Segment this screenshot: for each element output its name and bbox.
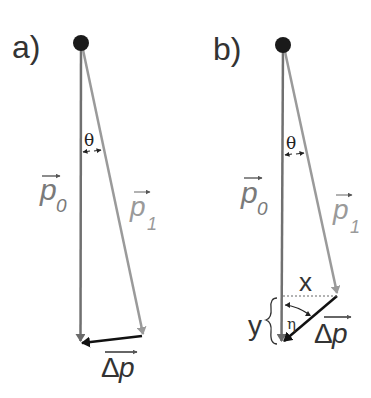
svg-text:p: p <box>39 173 57 206</box>
p1-label: p 1 <box>129 191 157 234</box>
theta-label: θ <box>84 130 94 150</box>
svg-text:p: p <box>331 318 348 349</box>
delta-p-vector <box>82 336 142 343</box>
p0-label: p 0 <box>39 173 67 216</box>
svg-text:1: 1 <box>350 217 360 237</box>
svg-text:p: p <box>118 352 135 383</box>
eta-arrow-left <box>285 302 290 308</box>
svg-text:p: p <box>129 191 146 222</box>
momentum-vector-diagram: a) θ p 0 p 1 Δ p b) <box>0 0 371 398</box>
p1-label: p 1 <box>332 194 360 237</box>
svg-text:Δ: Δ <box>314 318 333 349</box>
panel-b-label: b) <box>213 31 241 67</box>
svg-text:p: p <box>240 176 258 209</box>
p0-vector <box>282 46 284 341</box>
svg-text:1: 1 <box>147 214 157 234</box>
panel-a-label: a) <box>12 29 40 65</box>
pivot-point <box>73 35 89 51</box>
y-brace <box>266 298 277 344</box>
theta-arrow-right <box>94 150 101 151</box>
panel-b: b) θ p 0 p 1 x y <box>213 31 360 349</box>
svg-text:0: 0 <box>257 198 268 219</box>
svg-text:Δ: Δ <box>101 352 120 383</box>
svg-text:0: 0 <box>56 195 67 216</box>
theta-arrow-left <box>285 154 292 155</box>
theta-label: θ <box>286 133 296 153</box>
p0-vector <box>81 45 82 341</box>
delta-p-label: Δ p <box>101 352 137 383</box>
x-label: x <box>299 267 312 297</box>
p0-label: p 0 <box>240 176 268 219</box>
y-label: y <box>248 310 262 341</box>
pivot-point <box>275 37 291 53</box>
panel-a: a) θ p 0 p 1 Δ p <box>12 29 157 383</box>
svg-text:p: p <box>332 194 349 225</box>
p1-vector <box>284 47 337 293</box>
theta-arrow-left <box>83 151 90 152</box>
delta-p-label: Δ p <box>314 317 351 349</box>
theta-arrow-right <box>296 153 304 154</box>
eta-label: η <box>287 315 296 333</box>
p1-vector <box>82 45 143 334</box>
